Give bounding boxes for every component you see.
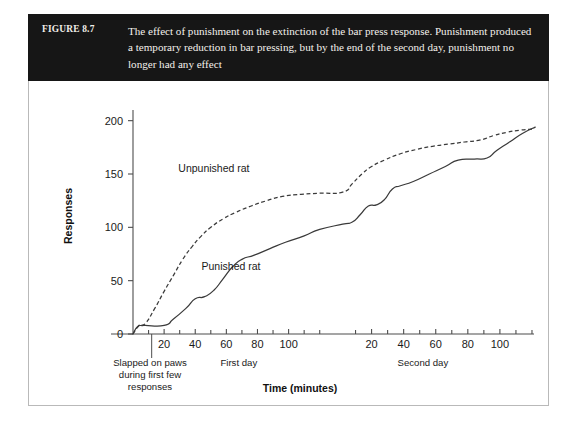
figure-root: FIGURE 8.7 The effect of punishment on t… (0, 0, 576, 429)
plot-frame (28, 81, 549, 406)
figure-number-label: FIGURE 8.7 (42, 23, 128, 34)
figure-caption-text: The effect of punishment on the extincti… (128, 23, 535, 72)
figure-caption-bar: FIGURE 8.7 The effect of punishment on t… (28, 14, 549, 81)
